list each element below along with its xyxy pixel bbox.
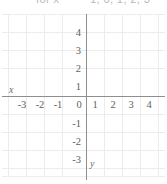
y-tick-label: 1 — [76, 81, 81, 92]
x-axis-label: x — [8, 84, 14, 95]
y-tick-label: -1 — [72, 118, 81, 129]
header-fragment-left: for x — [36, 0, 59, 5]
y-tick-label: 3 — [76, 45, 81, 56]
coordinate-plane-svg: -3 -2 -1 0 1 2 3 4 -3 -2 -1 1 2 3 4 x y — [0, 12, 167, 184]
y-tick-label: -3 — [72, 154, 81, 165]
x-tick-label: 4 — [146, 99, 152, 110]
x-tick-label: -3 — [18, 99, 27, 110]
y-tick-label: 4 — [76, 27, 82, 38]
y-axis-label: y — [89, 158, 95, 169]
clipped-header-text: for x 1, 0, 1, 2, 3 — [0, 0, 167, 9]
x-tick-label: 3 — [128, 99, 133, 110]
x-tick-label: 2 — [110, 99, 115, 110]
header-fragment-right: 1, 0, 1, 2, 3 — [90, 0, 150, 5]
y-tick-label: 2 — [76, 63, 81, 74]
coordinate-grid-graph: -3 -2 -1 0 1 2 3 4 -3 -2 -1 1 2 3 4 x y — [0, 12, 167, 184]
x-tick-label: -1 — [54, 99, 63, 110]
x-axis-tick-labels: -3 -2 -1 0 1 2 3 4 — [18, 99, 153, 110]
x-tick-label: 1 — [92, 99, 97, 110]
y-tick-label: -2 — [72, 136, 81, 147]
x-tick-label: 0 — [76, 99, 81, 110]
vertical-grid-lines — [9, 14, 159, 176]
x-tick-label: -2 — [36, 99, 45, 110]
